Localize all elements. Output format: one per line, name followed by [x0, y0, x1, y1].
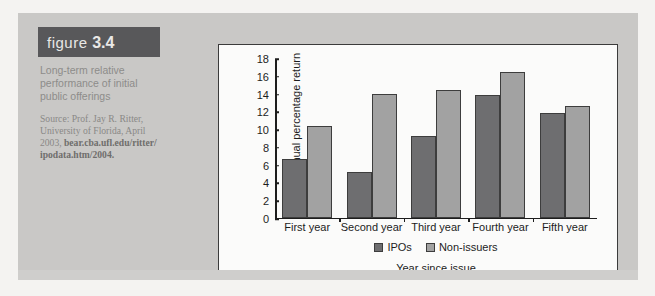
bar-ipo — [347, 172, 372, 217]
chart-container: Annual percentage return 024681012141618… — [218, 44, 618, 279]
caption-line: Long-term relative — [40, 64, 162, 77]
bar-non-issuer — [565, 106, 590, 217]
y-axis-tick-label: 14 — [229, 89, 275, 101]
y-axis-tick-label: 4 — [229, 177, 275, 189]
bar-non-issuer — [500, 72, 525, 218]
bar-ipo — [475, 95, 500, 218]
x-axis-line — [275, 218, 597, 220]
figure-caption: Long-term relative performance of initia… — [38, 64, 178, 104]
x-axis-tick-label: Third year — [404, 221, 468, 233]
source-line-plain: 2003, — [40, 137, 64, 148]
figure-source: Source: Prof. Jay R. Ritter, University … — [40, 113, 168, 161]
y-axis-tick-label: 16 — [229, 71, 275, 83]
bar-ipo — [282, 159, 307, 218]
legend-swatch-icon — [426, 243, 435, 252]
caption-line: public offerings — [40, 90, 162, 103]
legend-item: Non-issuers — [426, 241, 498, 253]
legend-label: IPOs — [387, 241, 411, 253]
bar-ipo — [540, 113, 565, 218]
source-line: 2003, bear.cba.ufl.edu/ritter/ — [40, 137, 168, 149]
x-axis-tick-label: Fifth year — [533, 221, 597, 233]
source-line: ipodata.htm/2004. — [40, 149, 168, 161]
plot-area: Annual percentage return 024681012141618… — [275, 59, 597, 219]
y-axis-tick-mark — [275, 218, 279, 220]
figure-number: 3.4 — [92, 34, 114, 51]
bar-groups — [275, 58, 597, 218]
source-line: University of Florida, April — [40, 125, 168, 137]
chart-plot-wrapper: Annual percentage return 024681012141618… — [219, 45, 617, 278]
source-url-part: ipodata.htm/2004. — [40, 149, 114, 160]
caption-line: performance of initial — [40, 77, 162, 90]
figure-caption-column: figure 3.4 Long-term relative performanc… — [38, 27, 178, 161]
legend-label: Non-issuers — [439, 241, 498, 253]
bar-group — [404, 58, 468, 218]
x-axis-title: Year since issue — [275, 262, 597, 274]
figure-label-prefix: figure — [47, 34, 88, 51]
chart-legend: IPOsNon-issuers — [275, 241, 597, 253]
legend-item: IPOs — [374, 241, 411, 253]
figure-header-block: figure 3.4 — [38, 27, 160, 57]
bar-ipo — [411, 136, 436, 218]
bar-non-issuer — [372, 94, 397, 218]
y-axis-tick-label: 8 — [229, 142, 275, 154]
bar-non-issuer — [307, 126, 332, 218]
y-axis-tick-label: 2 — [229, 195, 275, 207]
bar-group — [275, 58, 339, 218]
x-axis-tick-label: Fourth year — [468, 221, 532, 233]
x-axis-tick-label: First year — [275, 221, 339, 233]
legend-swatch-icon — [374, 243, 383, 252]
y-axis-tick-label: 10 — [229, 124, 275, 136]
x-axis-tick-labels: First yearSecond yearThird yearFourth ye… — [275, 221, 597, 233]
y-axis-tick-label: 18 — [229, 53, 275, 65]
bar-group — [533, 58, 597, 218]
page-background: figure 3.4 Long-term relative performanc… — [0, 0, 655, 296]
x-axis-tick-label: Second year — [339, 221, 403, 233]
y-axis-tick-label: 6 — [229, 160, 275, 172]
y-axis-tick-label: 12 — [229, 106, 275, 118]
bar-group — [468, 58, 532, 218]
y-axis-tick-label: 0 — [229, 213, 275, 225]
bar-non-issuer — [436, 90, 461, 217]
figure-header-text: figure 3.4 — [47, 34, 114, 52]
figure-panel: figure 3.4 Long-term relative performanc… — [18, 13, 638, 280]
source-url-part: bear.cba.ufl.edu/ritter/ — [64, 137, 157, 148]
bar-group — [339, 58, 403, 218]
source-line: Source: Prof. Jay R. Ritter, — [40, 113, 168, 125]
